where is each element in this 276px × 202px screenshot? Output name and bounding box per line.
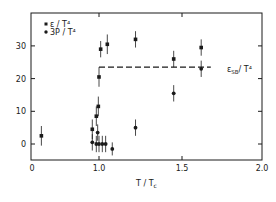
legend-circle-marker-icon bbox=[44, 30, 47, 33]
data-points bbox=[40, 31, 204, 155]
y-tick-label: 10 bbox=[16, 107, 26, 116]
data-point-square bbox=[91, 127, 95, 131]
x-tick-label: 1.0 bbox=[93, 164, 106, 173]
y-tick-label: 0 bbox=[21, 140, 26, 149]
legend: ε / T⁴ 3P / T⁴ bbox=[44, 20, 75, 37]
x-axis-label: T / Tc bbox=[135, 179, 157, 189]
x-tick-label: 0 bbox=[29, 164, 34, 173]
data-point-circle bbox=[100, 142, 104, 146]
y-tick-label: 20 bbox=[16, 75, 26, 84]
data-point-circle bbox=[110, 147, 114, 151]
legend-square-marker-icon bbox=[45, 23, 48, 26]
data-point-square bbox=[95, 114, 99, 118]
data-point-square bbox=[199, 46, 203, 50]
data-point-circle bbox=[134, 126, 138, 130]
data-point-square bbox=[40, 134, 44, 138]
data-point-circle bbox=[104, 142, 108, 146]
data-point-square bbox=[134, 38, 138, 42]
chart-canvas: 010203001.01.52.0 ε / T⁴ 3P / T⁴ T / Tc … bbox=[0, 0, 276, 202]
x-tick-label: 1.5 bbox=[176, 164, 189, 173]
data-point-square bbox=[97, 75, 101, 79]
data-point-circle bbox=[199, 67, 203, 71]
y-tick-label: 30 bbox=[16, 42, 26, 51]
legend-item-pressure: 3P / T⁴ bbox=[50, 28, 76, 37]
data-point-square bbox=[99, 47, 103, 51]
x-tick-label: 2.0 bbox=[256, 164, 269, 173]
axis-tick-labels: 010203001.01.52.0 bbox=[16, 42, 269, 173]
sb-line-label: εSB/ T⁴ bbox=[227, 65, 252, 75]
data-point-circle bbox=[172, 91, 176, 95]
data-point-square bbox=[106, 42, 110, 46]
data-point-circle bbox=[96, 131, 100, 135]
data-point-square bbox=[97, 105, 101, 109]
data-point-circle bbox=[97, 142, 101, 146]
data-point-square bbox=[172, 57, 176, 61]
data-point-circle bbox=[90, 140, 94, 144]
